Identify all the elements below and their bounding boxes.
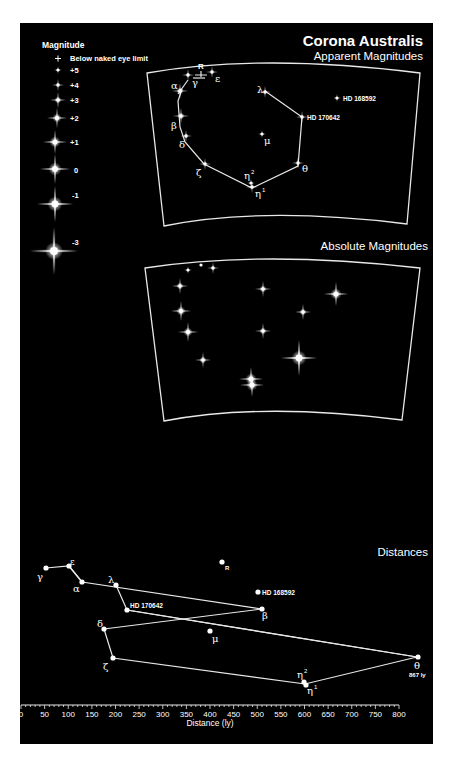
axis-tick-label: 500 [251, 710, 265, 719]
axis-tick-label: 750 [369, 710, 383, 719]
svg-text:+3: +3 [70, 96, 79, 105]
svg-text:R: R [225, 565, 230, 571]
axis-tick-label: 250 [132, 710, 146, 719]
svg-text:β: β [171, 120, 177, 131]
svg-text:0: 0 [74, 166, 78, 175]
svg-text:+2: +2 [70, 114, 79, 123]
svg-text:ε: ε [215, 73, 220, 84]
svg-text:η: η [255, 188, 261, 199]
star-hd168592 [333, 94, 341, 102]
svg-text:-1: -1 [72, 191, 79, 200]
svg-text:HD 170642: HD 170642 [307, 114, 340, 121]
star-icon [30, 227, 78, 275]
axis-tick-label: 800 [392, 710, 406, 719]
svg-text:867 ly: 867 ly [409, 672, 426, 678]
distance-axis: 0501001502002503003504004505005506006507… [19, 705, 406, 728]
plus-icon [55, 56, 61, 62]
svg-text:HD 168592: HD 168592 [262, 589, 295, 596]
absolute-magnitudes-map [145, 259, 420, 421]
star-icon [40, 154, 70, 184]
svg-text:-3: -3 [72, 238, 79, 247]
axis-tick-label: 0 [19, 710, 24, 719]
svg-text:Below naked eye limit: Below naked eye limit [70, 54, 148, 63]
svg-text:θ: θ [302, 163, 308, 174]
star-icon [43, 130, 67, 154]
svg-text:η: η [307, 685, 313, 696]
svg-text:1: 1 [314, 684, 318, 690]
svg-text:θ: θ [414, 660, 420, 671]
svg-text:γ: γ [192, 77, 198, 88]
axis-tick-label: 150 [85, 710, 99, 719]
svg-text:λ: λ [108, 574, 115, 585]
legend-item-mag1: +1 [43, 130, 79, 154]
svg-text:η: η [297, 669, 303, 680]
legend-item-mag4: +4 [52, 79, 79, 91]
apparent-magnitudes-map: R α γ ε β δ ζ η 2 η 1 θ λ μ HD 170642 HD… [147, 62, 420, 226]
axis-tick-label: 700 [345, 710, 359, 719]
legend-item-mag-3: -3 [30, 227, 79, 275]
svg-text:δ: δ [179, 139, 185, 150]
svg-text:+5: +5 [70, 66, 79, 75]
svg-text:HD 170642: HD 170642 [130, 602, 163, 609]
absolute-panel-title: Absolute Magnitudes [321, 240, 429, 252]
axis-tick-label: 600 [298, 710, 312, 719]
legend-heading: Magnitude [42, 40, 85, 50]
axis-tick-label: 50 [40, 710, 49, 719]
apparent-panel-title: Apparent Magnitudes [314, 50, 424, 62]
star-icon [37, 186, 73, 222]
axis-label: Distance (ly) [186, 718, 233, 728]
axis-tick-label: 200 [109, 710, 123, 719]
svg-text:R: R [198, 62, 204, 71]
svg-text:α: α [73, 583, 80, 594]
magnitude-legend: Magnitude Below naked eye limit +5 +4 +3… [30, 40, 148, 275]
axis-tick-label: 650 [321, 710, 335, 719]
map-frame [145, 259, 420, 421]
svg-text:ζ: ζ [196, 167, 202, 178]
svg-text:β: β [262, 610, 268, 621]
star-icon [54, 66, 62, 74]
svg-text:γ: γ [37, 571, 43, 582]
legend-item-below-limit: Below naked eye limit [55, 54, 148, 63]
svg-text:ζ: ζ [103, 661, 109, 672]
chart-title: Corona Australis [303, 32, 423, 49]
svg-text:μ: μ [264, 135, 271, 146]
svg-text:λ: λ [257, 84, 264, 95]
legend-item-mag5: +5 [54, 66, 79, 75]
svg-text:α: α [171, 80, 178, 91]
svg-text:2: 2 [251, 169, 255, 175]
constellation-chart: Corona Australis Apparent Magnitudes Mag… [0, 0, 455, 764]
svg-text:+4: +4 [70, 81, 79, 90]
svg-text:2: 2 [304, 668, 308, 674]
star-icon [52, 79, 64, 91]
distances-plot: γ ε α λ HD 170642 δ ζ μ R HD 168592 β η … [37, 557, 426, 696]
axis-tick-label: 300 [156, 710, 170, 719]
legend-item-mag2: +2 [47, 108, 79, 128]
axis-tick-label: 100 [62, 710, 76, 719]
svg-text:δ: δ [97, 618, 103, 629]
svg-text:η: η [244, 170, 250, 181]
distances-panel-title: Distances [378, 546, 429, 558]
svg-text:ε: ε [70, 557, 75, 567]
star-icon [50, 92, 66, 108]
legend-item-mag0: 0 [40, 154, 78, 184]
svg-text:HD 168592: HD 168592 [343, 95, 376, 102]
axis-tick-label: 550 [274, 710, 288, 719]
legend-item-mag3: +3 [50, 92, 79, 108]
svg-text:+1: +1 [70, 138, 79, 147]
legend-item-mag-1: -1 [37, 186, 79, 222]
svg-text:1: 1 [262, 187, 266, 193]
svg-text:μ: μ [212, 633, 219, 644]
star-icon [47, 108, 67, 128]
